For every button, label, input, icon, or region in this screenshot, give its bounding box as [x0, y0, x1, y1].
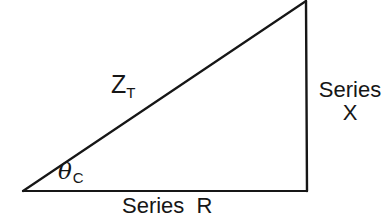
vertical-leg-label: SeriesX [316, 79, 384, 124]
vertical-leg-label-line2: X [316, 102, 384, 124]
hypotenuse-symbol: Z [111, 70, 126, 98]
angle-subscript: C [73, 169, 84, 186]
hypotenuse-label: ZT [111, 72, 135, 100]
hypotenuse-subscript: T [126, 84, 135, 101]
diagram-canvas: ZT θC SeriesX Series R [0, 0, 387, 220]
triangle-vertical-line [306, 1, 307, 191]
angle-label: θC [58, 160, 84, 185]
base-leg-label: Series R [122, 195, 212, 217]
theta-symbol: θ [58, 158, 72, 184]
vertical-leg-label-line1: Series [319, 77, 381, 102]
